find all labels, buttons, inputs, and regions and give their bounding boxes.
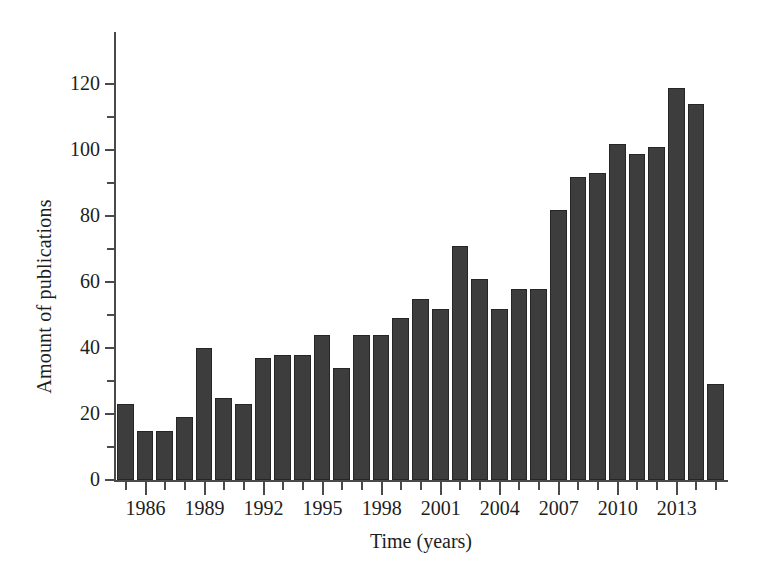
bar (648, 147, 665, 480)
bar (294, 355, 311, 480)
bar (333, 368, 350, 480)
bar (491, 309, 508, 480)
bar (373, 335, 390, 480)
bar (235, 404, 252, 480)
bar (452, 246, 469, 480)
bar (215, 398, 232, 480)
bar (550, 210, 567, 480)
bar (255, 358, 272, 480)
bar (137, 431, 154, 480)
bar (117, 404, 134, 480)
bar (530, 289, 547, 480)
x-axis-title: Time (years) (116, 530, 726, 553)
bar-series (0, 0, 761, 580)
bar (176, 417, 193, 480)
bar (412, 299, 429, 480)
bar (668, 88, 685, 480)
bar (392, 318, 409, 480)
bar (196, 348, 213, 480)
bar (353, 335, 370, 480)
bar (629, 154, 646, 480)
bar (274, 355, 291, 480)
bar (156, 431, 173, 480)
bar (471, 279, 488, 480)
bar (314, 335, 331, 480)
bar (707, 384, 724, 480)
bar (570, 177, 587, 480)
bar (432, 309, 449, 480)
bar (688, 104, 705, 480)
bar (511, 289, 528, 480)
bar-chart-figure: Amount of publications 020406080100120 1… (0, 0, 761, 580)
bar (609, 144, 626, 480)
bar (589, 173, 606, 480)
